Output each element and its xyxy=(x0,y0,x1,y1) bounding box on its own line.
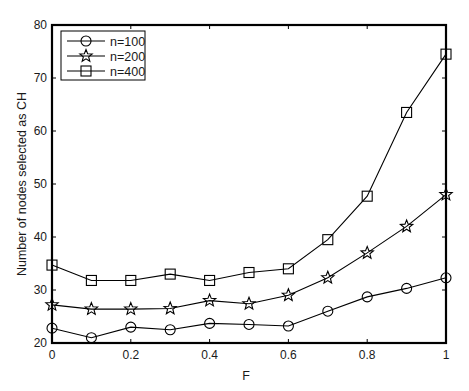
x-tick-label: 0.8 xyxy=(359,348,376,362)
y-tick-label: 80 xyxy=(34,18,48,32)
series-line xyxy=(52,278,446,338)
series-n-100 xyxy=(47,273,451,343)
legend-label: n=100 xyxy=(110,35,145,49)
legend-label: n=200 xyxy=(110,50,145,64)
x-tick-label: 0.6 xyxy=(280,348,297,362)
y-axis-title: Number of nodes selected as CH xyxy=(15,92,29,276)
x-tick-label: 0 xyxy=(49,348,56,362)
star-marker-icon xyxy=(203,294,215,306)
star-marker-icon xyxy=(85,303,97,315)
legend: n=100n=200n=400 xyxy=(61,31,145,80)
series-line xyxy=(52,195,446,309)
y-tick-label: 50 xyxy=(34,177,48,191)
x-axis-title: F xyxy=(242,369,250,383)
x-tick-label: 1 xyxy=(443,348,450,362)
x-tick-label: 0.4 xyxy=(201,348,218,362)
series-layer xyxy=(46,49,452,343)
series-n-400 xyxy=(47,49,451,285)
series-n-200 xyxy=(46,188,452,314)
y-tick-label: 20 xyxy=(34,336,48,350)
star-marker-icon xyxy=(164,302,176,314)
y-tick-label: 30 xyxy=(34,283,48,297)
line-chart: 00.20.40.60.81 20304050607080 n=100n=200… xyxy=(0,0,469,391)
y-tick-label: 40 xyxy=(34,230,48,244)
star-marker-icon xyxy=(125,303,137,315)
star-marker-icon xyxy=(243,297,255,309)
y-tick-label: 60 xyxy=(34,124,48,138)
x-tick-label: 0.2 xyxy=(122,348,139,362)
y-tick-label: 70 xyxy=(34,71,48,85)
legend-label: n=400 xyxy=(110,65,145,79)
series-line xyxy=(52,54,446,280)
star-marker-icon xyxy=(282,289,294,301)
